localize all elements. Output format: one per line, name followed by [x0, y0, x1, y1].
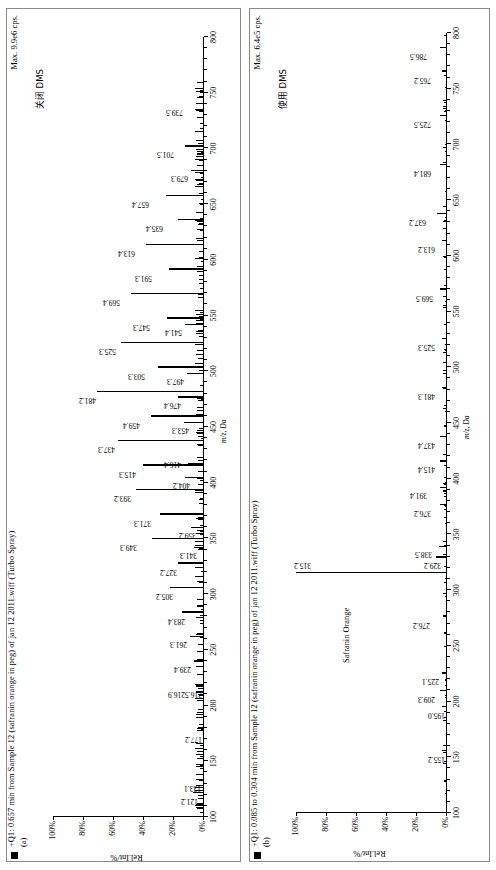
x-tick-label: 400: [452, 465, 461, 493]
spectrum-peak: [198, 358, 203, 359]
spectrum-peak: [198, 709, 203, 710]
spectrum-peak: [195, 492, 203, 493]
x-tick-label: 800: [209, 23, 218, 51]
spectrum-peak: [444, 465, 446, 466]
x-tick-minor: [447, 322, 450, 323]
peak-label: 725.5: [414, 120, 431, 129]
peak-label: 701.5: [157, 150, 174, 159]
spectrum-peak: [444, 257, 446, 258]
x-tick-minor: [204, 549, 207, 550]
spectrum-peak-labeled: [442, 240, 447, 241]
x-tick-minor: [447, 299, 450, 300]
x-tick-minor: [447, 790, 450, 791]
spectrum-peak: [444, 35, 446, 36]
spectrum-peak: [198, 519, 203, 520]
spectrum-peak: [443, 296, 446, 297]
spectrum-peak-labeled: [151, 415, 204, 416]
x-tick-minor: [447, 244, 450, 245]
panel-a-plot-area: 100%80%60%40%20%0%Rel.Int/%1001502002503…: [53, 37, 203, 817]
x-tick-minor: [204, 783, 207, 784]
peak-label: 261.3: [169, 640, 186, 649]
x-tick-minor: [204, 627, 207, 628]
spectrum-peak: [197, 752, 203, 753]
peak-label: 376.2: [414, 509, 431, 518]
spectrum-peak: [197, 633, 203, 634]
y-axis-label: Rel.Int/%: [340, 849, 400, 858]
x-tick-minor: [447, 656, 450, 657]
spectrum-peak: [200, 615, 203, 616]
spectrum-peak: [443, 147, 446, 148]
x-tick-label: 200: [452, 688, 461, 716]
spectrum-peak: [444, 405, 446, 406]
x-tick-label: 500: [452, 353, 461, 381]
peak-label: 133.1: [183, 784, 200, 793]
peak-label: 305.2: [156, 592, 173, 601]
peak-label: 547.3: [133, 323, 150, 332]
x-tick-major: [204, 816, 208, 817]
spectrum-peak: [444, 566, 446, 567]
spectrum-peak-labeled: [440, 487, 446, 488]
peak-label: 239.4: [174, 665, 191, 674]
spectrum-peak: [200, 745, 203, 746]
peak-label: 393.2: [113, 494, 130, 503]
spectrum-peak: [445, 344, 446, 345]
x-tick-label: 150: [452, 743, 461, 771]
spectrum-peak: [199, 212, 203, 213]
spectrum-peak: [443, 162, 446, 163]
x-tick-minor: [447, 177, 450, 178]
spectrum-peak: [196, 110, 203, 111]
x-tick-minor: [447, 166, 450, 167]
peak-label: 404.2: [173, 481, 190, 490]
x-tick-label: 550: [209, 302, 218, 330]
x-tick-minor: [447, 779, 450, 780]
x-tick-minor: [204, 638, 207, 639]
spectrum-peak: [198, 159, 203, 160]
spectrum-peak: [443, 362, 446, 363]
spectrum-peak: [200, 385, 203, 386]
y-tick-label: 80%: [78, 821, 87, 849]
x-tick-minor: [204, 81, 207, 82]
spectrum-peak: [445, 87, 446, 88]
y-tick: [113, 816, 114, 820]
spectrum-peak: [444, 505, 446, 506]
spectrum-peak-labeled: [440, 436, 446, 437]
spectrum-peak: [445, 217, 446, 218]
spectrum-peak: [196, 766, 203, 767]
x-tick-minor: [447, 723, 450, 724]
x-tick-minor: [447, 444, 450, 445]
peak-label: 613.4: [118, 249, 135, 258]
x-tick-major: [204, 482, 208, 483]
spectrum-peak: [197, 184, 203, 185]
spectrum-peak: [445, 523, 446, 524]
spectrum-peak: [198, 445, 203, 446]
spectrum-peak: [198, 549, 203, 550]
x-tick-minor: [447, 611, 450, 612]
spectrum-peak-labeled: [442, 338, 447, 339]
spectrum-peak: [444, 517, 446, 518]
spectrum-peak: [445, 120, 446, 121]
y-tick-label: 20%: [411, 817, 420, 845]
spectrum-peak: [195, 344, 203, 345]
y-tick: [416, 812, 417, 816]
x-tick-minor: [204, 415, 207, 416]
peak-label: 681.4: [414, 169, 431, 178]
panel-marker-square: [11, 852, 18, 859]
x-tick-label: 300: [452, 576, 461, 604]
spectrum-peak-labeled: [440, 164, 446, 165]
x-tick-minor: [204, 716, 207, 717]
peak-label: 327.2: [159, 568, 176, 577]
x-tick-minor: [447, 110, 450, 111]
x-tick-label: 650: [452, 186, 461, 214]
x-tick-minor: [204, 270, 207, 271]
spectrum-peak: [201, 617, 203, 618]
peak-label: 525.3: [417, 343, 434, 352]
spectrum-peak: [200, 620, 203, 621]
y-tick: [386, 812, 387, 816]
spectrum-peak: [443, 373, 446, 374]
spectrum-peak-labeled: [191, 170, 203, 171]
spectrum-peak: [199, 724, 203, 725]
x-tick-minor: [447, 511, 450, 512]
peak-label: 216.9: [167, 690, 184, 699]
spectrum-peak: [443, 388, 446, 389]
peak-label: 541.4: [165, 328, 182, 337]
